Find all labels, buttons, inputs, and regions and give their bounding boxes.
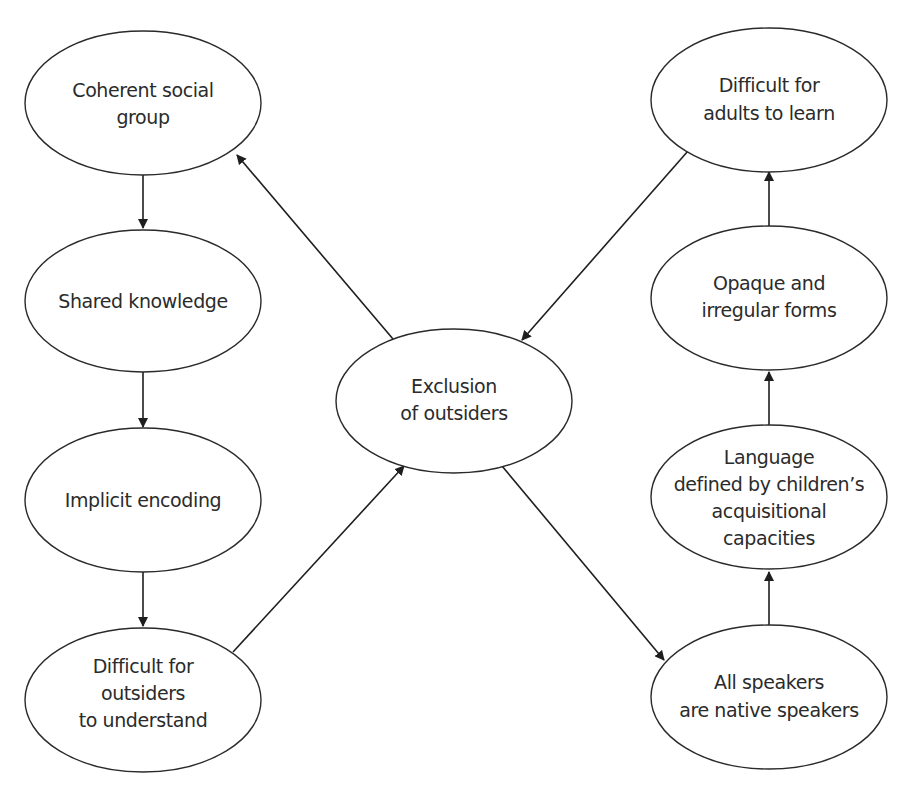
diagram-canvas: Coherent social group Shared knowledge I… xyxy=(0,0,914,793)
node-label-line: defined by children’s xyxy=(674,473,865,495)
node-label-line: capacities xyxy=(723,527,815,549)
node-label-line: Exclusion xyxy=(411,375,497,397)
node-language-defined-by-children: Language defined by children’s acquisiti… xyxy=(651,425,887,569)
node-difficult-for-outsiders: Difficult for outsiders to understand xyxy=(25,628,261,772)
node-all-native-speakers: All speakers are native speakers xyxy=(651,625,887,769)
node-label-line: Difficult for xyxy=(719,74,820,96)
edge-exclusion-to-native xyxy=(502,466,664,660)
node-coherent-social-group: Coherent social group xyxy=(25,31,261,175)
node-label-line: outsiders xyxy=(101,682,185,704)
node-label-line: to understand xyxy=(79,709,208,731)
node-difficult-for-adults: Difficult for adults to learn xyxy=(651,28,887,172)
node-label-line: Implicit encoding xyxy=(65,489,221,511)
node-label-line: Coherent social xyxy=(72,79,213,101)
node-shared-knowledge: Shared knowledge xyxy=(25,230,261,372)
node-label-line: All speakers xyxy=(714,671,824,693)
node-label-line: group xyxy=(116,106,170,128)
node-label-line: Difficult for xyxy=(93,655,194,677)
node-label-line: Shared knowledge xyxy=(58,290,228,312)
node-implicit-encoding: Implicit encoding xyxy=(25,428,261,572)
node-opaque-irregular-forms: Opaque and irregular forms xyxy=(651,226,887,370)
node-label-line: acquisitional xyxy=(712,500,827,522)
node-exclusion-of-outsiders: Exclusion of outsiders xyxy=(336,329,572,473)
node-label-line: adults to learn xyxy=(703,102,835,124)
node-label-line: Opaque and xyxy=(713,272,825,294)
node-label-line: irregular forms xyxy=(702,299,837,321)
node-label-line: of outsiders xyxy=(400,402,507,424)
node-label-line: are native speakers xyxy=(679,699,859,721)
node-label-line: Language xyxy=(724,446,815,468)
